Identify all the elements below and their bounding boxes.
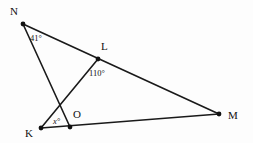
- point-label-k: K: [25, 127, 33, 139]
- vertex-dot-m: [217, 112, 222, 117]
- point-label-l: L: [101, 40, 108, 52]
- point-label-m: M: [228, 109, 238, 121]
- geometry-canvas: N L M K O 41° 110° x°: [0, 0, 253, 143]
- angle-label-at-n: 41°: [30, 33, 42, 43]
- segment-n-m: [23, 24, 219, 114]
- angle-label-at-l: 110°: [89, 68, 105, 78]
- geometry-diagram: N L M K O 41° 110° x°: [0, 0, 253, 143]
- point-label-n: N: [10, 5, 18, 17]
- vertex-dot-o: [68, 125, 73, 130]
- point-label-o: O: [73, 108, 81, 120]
- vertex-dot-k: [39, 126, 44, 131]
- vertex-dot-l: [96, 57, 101, 62]
- vertex-dot-n: [21, 22, 26, 27]
- angle-label-at-k: x°: [52, 116, 61, 126]
